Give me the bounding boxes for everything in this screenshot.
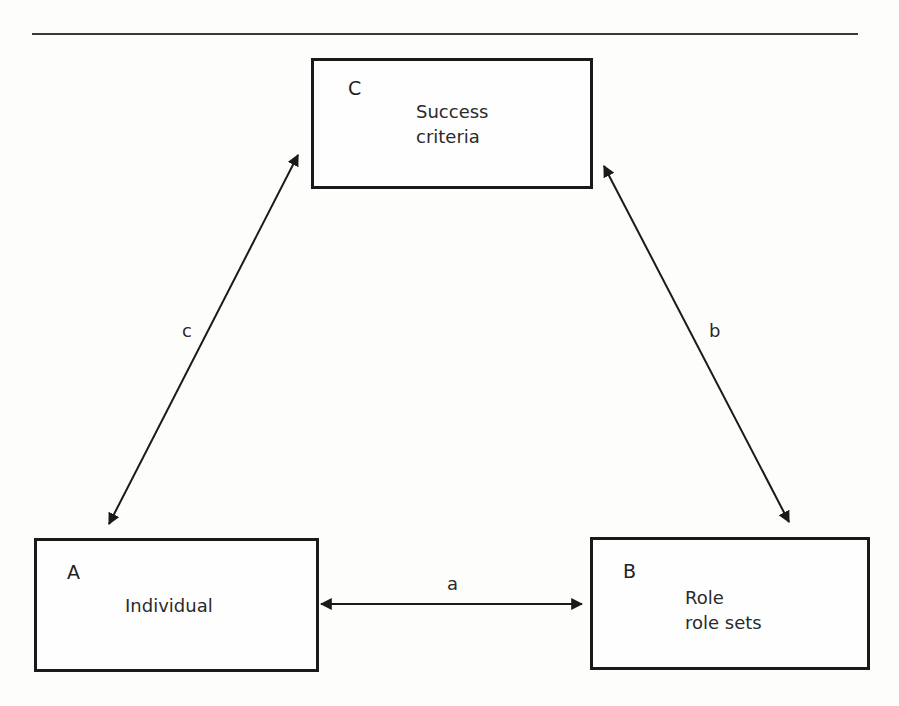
edge-b-arrow bbox=[604, 166, 789, 522]
node-c-letter: C bbox=[348, 77, 361, 99]
node-a-individual: A Individual bbox=[34, 538, 319, 672]
node-a-label: Individual bbox=[125, 593, 213, 618]
node-a-letter: A bbox=[67, 561, 80, 583]
edge-a-label: a bbox=[447, 573, 458, 594]
edge-c-arrow bbox=[109, 155, 298, 524]
node-c-success-criteria: C Success criteria bbox=[311, 58, 593, 189]
node-c-label-line1: Success bbox=[416, 99, 488, 124]
node-b-label-line1: Role bbox=[685, 585, 724, 610]
node-b-label-line2: role sets bbox=[685, 610, 762, 635]
node-c-label-line2: criteria bbox=[416, 124, 480, 149]
node-b-letter: B bbox=[623, 560, 636, 582]
node-b-role: B Role role sets bbox=[590, 537, 870, 670]
edge-b-label: b bbox=[709, 320, 720, 341]
edge-c-label: c bbox=[182, 320, 192, 341]
